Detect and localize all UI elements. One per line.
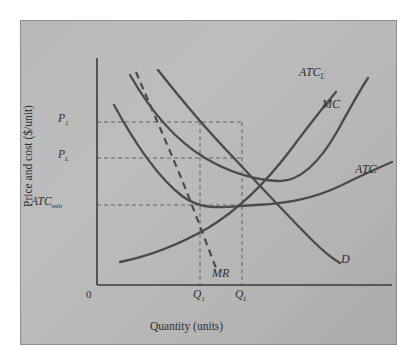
- p1-base: P: [58, 112, 65, 124]
- x-tick-label-ql: QL: [235, 289, 247, 303]
- pl-base: P: [58, 148, 65, 160]
- atcl-subscript: L: [321, 72, 325, 81]
- atcmin-base: ATC: [31, 195, 52, 207]
- y-axis-title: Price and cost ($/unit): [22, 76, 34, 236]
- curve-label-atc: ATC: [355, 163, 377, 175]
- figure-container: Price and cost ($/unit) Quantity (units)…: [0, 0, 420, 356]
- curve-label-marginal-revenue: MR: [212, 267, 229, 279]
- axis-origin-label: 0: [86, 289, 92, 300]
- x-tick-label-q1: Q1: [193, 289, 205, 303]
- y-tick-label-p1: P1: [58, 113, 69, 127]
- ql-subscript: L: [243, 295, 247, 303]
- atcl-base: ATC: [299, 65, 321, 79]
- p1-subscript: 1: [65, 119, 69, 127]
- x-axis-title: Quantity (units): [150, 320, 223, 332]
- curve-label-atc-long-run: ATCL: [299, 66, 325, 81]
- curve-label-demand: D: [341, 253, 350, 265]
- y-tick-label-pl: PL: [58, 149, 69, 163]
- chart-panel: [20, 20, 397, 345]
- atcmin-subscript: min: [52, 202, 63, 210]
- q1-subscript: 1: [201, 295, 205, 303]
- y-tick-label-atcmin: ATCmin: [31, 196, 62, 210]
- curve-label-mc: MC: [322, 98, 340, 110]
- pl-subscript: L: [65, 155, 69, 163]
